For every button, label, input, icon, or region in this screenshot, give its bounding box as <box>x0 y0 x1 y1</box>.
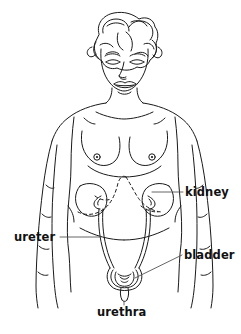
chest <box>84 112 165 124</box>
label-ureter: ureter <box>14 231 55 243</box>
torso <box>52 103 197 292</box>
leader-line-bladder <box>135 255 182 278</box>
arm-right <box>191 141 213 308</box>
neck <box>106 88 143 103</box>
hair <box>87 12 162 70</box>
arm-left <box>36 141 58 308</box>
label-kidney: kidney <box>185 186 229 198</box>
breast-right <box>129 131 168 166</box>
breast-left <box>81 131 120 166</box>
anatomy-illustration <box>0 0 241 334</box>
abdomen <box>80 166 169 240</box>
diagram-canvas: kidney ureter bladder urethra <box>0 0 241 334</box>
label-bladder: bladder <box>184 249 235 261</box>
face <box>101 49 148 94</box>
bladder <box>107 268 142 291</box>
label-urethra: urethra <box>97 306 146 318</box>
